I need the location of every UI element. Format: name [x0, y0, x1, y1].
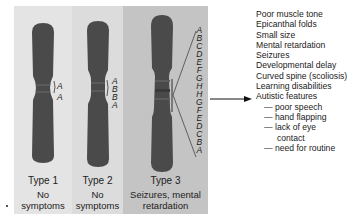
symptom-item: Developmental delay: [256, 60, 347, 70]
segment-label: A: [57, 92, 63, 103]
type1-chromosome: [32, 23, 54, 163]
phenotype-text: No: [72, 189, 123, 200]
phenotype-text: symptoms: [72, 200, 123, 211]
segment-label: A: [196, 146, 203, 154]
type3-caption: Type 3 Seizures, mental retardation: [123, 175, 208, 211]
symptom-item: Curved spine (scoliosis): [256, 71, 347, 81]
phenotype-text: No: [14, 189, 72, 200]
symptom-item: Learning disabilities: [256, 81, 347, 91]
symptom-item: Small size: [256, 30, 347, 40]
type1-segment-labels: A A: [57, 81, 63, 103]
type3-chromosome: [151, 15, 173, 172]
type-label: Type 1: [14, 175, 72, 186]
symptom-item: Epicanthal folds: [256, 19, 347, 29]
phenotype-text: retardation: [123, 200, 208, 211]
segment-label: A: [112, 101, 118, 109]
type2-caption: Type 2 No symptoms: [72, 175, 123, 211]
symptom-subitem: contact: [256, 133, 347, 143]
type3-segment-labels: A B C D E F G H H G F E D C B A: [196, 26, 203, 154]
symptom-subitem: — need for routine: [256, 143, 347, 153]
symptom-item: Seizures: [256, 50, 347, 60]
segment-label: A: [57, 81, 63, 92]
symptom-item: Autistic features: [256, 91, 347, 101]
phenotype-text: symptoms: [14, 200, 72, 211]
stray-mark: [6, 205, 8, 207]
symptom-item: Mental retardation: [256, 40, 347, 50]
type-label: Type 3: [123, 175, 208, 186]
type2-segment-labels: A B B A: [112, 77, 118, 109]
phenotype-text: Seizures, mental: [123, 189, 208, 200]
symptom-subitem: — poor speech: [256, 102, 347, 112]
type2-chromosome: [87, 21, 109, 167]
type1-caption: Type 1 No symptoms: [14, 175, 72, 211]
symptom-item: Poor muscle tone: [256, 9, 347, 19]
symptom-list: Poor muscle tone Epicanthal folds Small …: [256, 9, 347, 153]
arrow-icon: [210, 96, 252, 102]
symptom-subitem: — lack of eye: [256, 122, 347, 132]
type-label: Type 2: [72, 175, 123, 186]
symptom-subitem: — hand flapping: [256, 112, 347, 122]
